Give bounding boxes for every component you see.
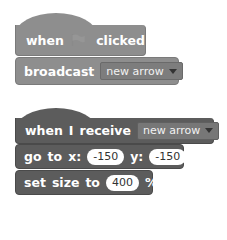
y-value-input[interactable]: -150: [149, 149, 186, 165]
broadcast-message-value: new arrow: [106, 65, 163, 78]
to-label: to: [48, 149, 63, 164]
dropdown-arrow-icon: [205, 128, 213, 133]
broadcast-block[interactable]: broadcast new arrow: [15, 57, 179, 85]
when-i-receive-hat-block[interactable]: when I receive new arrow: [15, 118, 214, 144]
percent-label: %: [145, 175, 158, 190]
receive-message-dropdown[interactable]: new arrow: [137, 122, 219, 140]
clicked-label: clicked: [96, 33, 145, 48]
receive-message-value: new arrow: [143, 124, 200, 137]
broadcast-label: broadcast: [24, 64, 94, 79]
to-label: to: [85, 175, 100, 190]
when-label: when: [25, 123, 63, 138]
y-label: y:: [130, 149, 143, 164]
i-label: I: [69, 123, 74, 138]
size-label: size: [52, 175, 79, 190]
when-flag-clicked-hat-block[interactable]: when clicked: [15, 25, 146, 56]
set-size-block[interactable]: set size to 400 %: [15, 170, 153, 195]
set-label: set: [24, 175, 46, 190]
go-to-xy-block[interactable]: go to x: -150 y: -150: [15, 144, 184, 169]
x-value-input[interactable]: -150: [87, 149, 124, 165]
size-value-input[interactable]: 400: [106, 175, 139, 191]
receive-label: receive: [79, 123, 130, 138]
x-label: x:: [68, 149, 81, 164]
green-flag-icon: [70, 32, 86, 48]
broadcast-message-dropdown[interactable]: new arrow: [100, 62, 182, 80]
when-label: when: [26, 33, 64, 48]
dropdown-arrow-icon: [169, 69, 177, 74]
go-label: go: [24, 149, 42, 164]
